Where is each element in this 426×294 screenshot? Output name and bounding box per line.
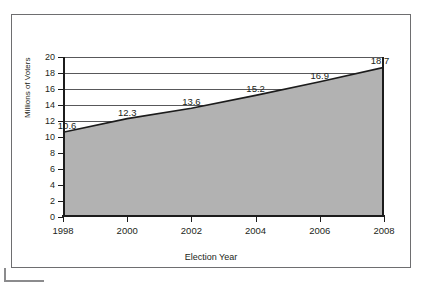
y-axis-tick-label: 8 (50, 149, 55, 158)
y-axis-tick (58, 169, 63, 170)
x-axis-tick-label: 2002 (181, 226, 202, 236)
x-axis-line (62, 215, 385, 217)
area-series-fill (63, 67, 384, 217)
y-axis-tick-label: 6 (50, 165, 55, 174)
plot-right-edge-line (382, 57, 384, 217)
x-axis-tick-label: 2006 (309, 226, 330, 236)
data-point-label: 18.7 (371, 56, 390, 66)
x-axis-tick-label: 1998 (52, 226, 73, 236)
y-axis-tick-label: 4 (50, 181, 55, 190)
x-axis-tick-label: 2004 (245, 226, 266, 236)
page-corner-mark (4, 268, 44, 282)
x-axis-tick (63, 217, 64, 222)
x-axis-tick (127, 217, 128, 222)
y-axis-tick (58, 89, 63, 90)
x-axis-title: Election Year (12, 252, 410, 262)
data-point-label: 13.6 (182, 97, 201, 107)
area-series (63, 57, 384, 217)
y-axis-tick-label: 10 (45, 133, 55, 142)
y-axis-tick (58, 137, 63, 138)
y-axis-tick (58, 73, 63, 74)
y-axis-tick-label: 20 (45, 53, 55, 62)
y-axis-line (63, 57, 65, 217)
x-axis-tick-label: 2008 (373, 226, 394, 236)
x-axis-tick (191, 217, 192, 222)
data-point-label: 16.9 (311, 71, 330, 81)
y-axis-tick (58, 153, 63, 154)
y-axis-title: Millions of Voters (24, 58, 32, 118)
y-axis-tick-label: 14 (45, 101, 55, 110)
y-axis-tick-label: 18 (45, 69, 55, 78)
x-axis-tick (320, 217, 321, 222)
y-axis-tick-label: 2 (50, 197, 55, 206)
plot-area: 02468101214161820 1998200020022004200620… (63, 57, 384, 217)
y-axis-tick (58, 185, 63, 186)
x-axis-tick-label: 2000 (117, 226, 138, 236)
y-axis-tick (58, 57, 63, 58)
x-axis-tick (256, 217, 257, 222)
data-point-label: 15.2 (246, 84, 265, 94)
y-axis-tick-label: 12 (45, 117, 55, 126)
y-axis-tick (58, 201, 63, 202)
y-axis-tick (58, 105, 63, 106)
y-axis-tick-label: 16 (45, 85, 55, 94)
y-axis-tick-label: 0 (50, 213, 55, 222)
chart-figure-frame: 02468101214161820 1998200020022004200620… (11, 14, 411, 268)
x-axis-tick (384, 217, 385, 222)
data-point-label: 12.3 (118, 108, 137, 118)
data-point-label: 10.6 (58, 121, 77, 131)
